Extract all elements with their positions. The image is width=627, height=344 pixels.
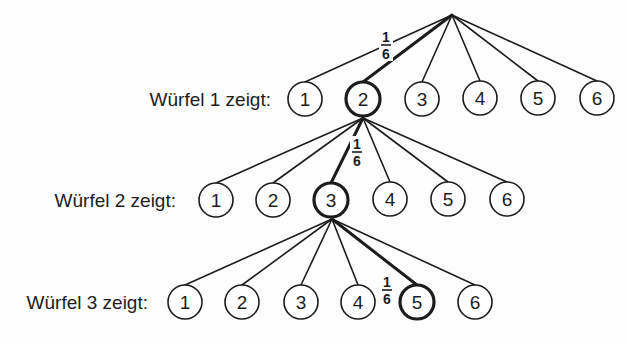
level-label: Würfel 1 zeigt: <box>150 89 271 110</box>
node-value: 1 <box>300 89 311 110</box>
outcome-node: 5 <box>431 182 465 216</box>
node-value: 6 <box>592 88 603 109</box>
outcome-node: 1 <box>168 285 202 319</box>
node-value: 4 <box>475 88 486 109</box>
node-value: 2 <box>358 89 369 110</box>
outcome-node: 4 <box>341 285 375 319</box>
node-value: 4 <box>385 189 396 210</box>
outcome-node: 1 <box>288 82 322 116</box>
node-value: 1 <box>180 292 191 313</box>
node-value: 3 <box>296 292 307 313</box>
node-value: 5 <box>443 189 454 210</box>
fraction-denominator: 6 <box>382 46 390 62</box>
node-value: 2 <box>268 190 279 211</box>
level-labels: Würfel 1 zeigt:Würfel 2 zeigt:Würfel 3 z… <box>27 89 271 313</box>
fraction-denominator: 6 <box>383 291 391 307</box>
node-value: 4 <box>353 292 364 313</box>
probability-fraction: 16 <box>380 274 394 307</box>
outcome-node: 1 <box>199 183 233 217</box>
highlighted-edge <box>363 15 452 82</box>
tree-canvas: 123456123456123456 Würfel 1 zeigt:Würfel… <box>0 0 627 344</box>
fraction-denominator: 6 <box>353 153 361 169</box>
highlighted-outcome-node: 5 <box>400 285 434 319</box>
outcome-node: 3 <box>284 285 318 319</box>
node-value: 6 <box>502 189 513 210</box>
tree-edge <box>273 118 363 183</box>
outcome-node: 5 <box>521 81 555 115</box>
tree-edge <box>301 219 332 285</box>
outcome-node: 2 <box>225 285 259 319</box>
level-label: Würfel 3 zeigt: <box>27 292 148 313</box>
edge-probabilities: 161616 <box>350 29 394 307</box>
outcome-node: 6 <box>580 81 614 115</box>
outcome-node: 6 <box>458 285 492 319</box>
probability-fraction: 16 <box>350 136 364 169</box>
outcome-node: 6 <box>490 182 524 216</box>
node-value: 2 <box>237 292 248 313</box>
fraction-numerator: 1 <box>383 274 391 290</box>
highlighted-outcome-node: 2 <box>346 82 380 116</box>
node-value: 1 <box>211 190 222 211</box>
tree-edge <box>242 219 332 285</box>
fraction-numerator: 1 <box>353 136 361 152</box>
level-label: Würfel 2 zeigt: <box>55 190 176 211</box>
tree-edge <box>216 118 363 183</box>
probability-fraction: 16 <box>379 29 393 62</box>
tree-edge <box>185 219 332 285</box>
node-value: 5 <box>533 88 544 109</box>
outcome-node: 4 <box>463 81 497 115</box>
node-value: 3 <box>326 190 337 211</box>
node-value: 6 <box>470 292 481 313</box>
node-value: 3 <box>417 89 428 110</box>
highlighted-outcome-node: 3 <box>314 183 348 217</box>
outcome-node: 2 <box>256 183 290 217</box>
outcome-node: 4 <box>373 182 407 216</box>
outcome-node: 3 <box>405 82 439 116</box>
node-value: 5 <box>412 292 423 313</box>
probability-tree-diagram: 123456123456123456 Würfel 1 zeigt:Würfel… <box>0 0 627 344</box>
fraction-numerator: 1 <box>382 29 390 45</box>
